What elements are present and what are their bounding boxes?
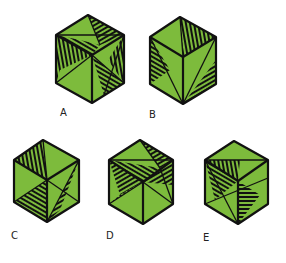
cube-figure-c: [14, 140, 79, 222]
cube-figure-a: [56, 15, 124, 103]
option-label-b: B: [149, 109, 156, 120]
option-label-d: D: [106, 230, 114, 241]
cube-figure-b: [150, 17, 216, 104]
cube-figure-e: [205, 141, 268, 224]
cube-figure-d: [109, 140, 173, 224]
option-label-a: A: [60, 107, 67, 118]
option-label-c: C: [11, 230, 18, 241]
cube-puzzle-diagram: [0, 0, 286, 263]
option-label-e: E: [203, 232, 209, 243]
